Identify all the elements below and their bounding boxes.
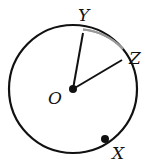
label-o: O (48, 88, 62, 108)
label-z: Z (128, 48, 142, 68)
radius-oy (73, 33, 83, 89)
label-x: X (110, 143, 125, 163)
radius-oz (73, 60, 122, 89)
label-y: Y (78, 5, 91, 25)
circle-diagram: Y Z O X (0, 0, 149, 166)
center-point-o (69, 85, 77, 93)
point-x (101, 135, 109, 143)
